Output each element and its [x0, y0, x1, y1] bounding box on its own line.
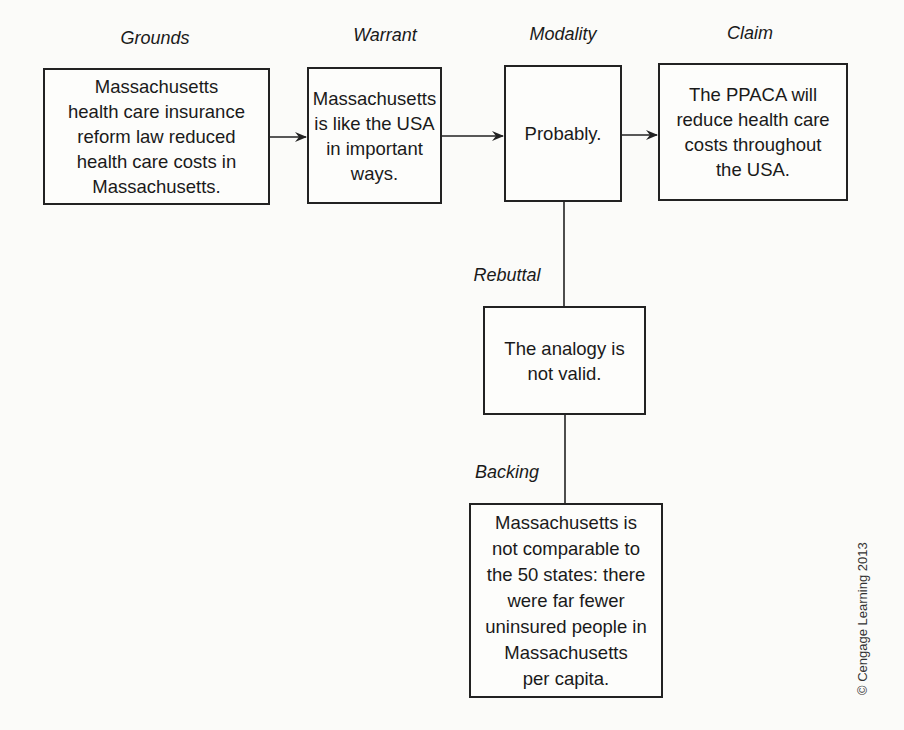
backing-box: Massachusetts is not comparable to the 5… [469, 503, 663, 698]
grounds-box: Massachusetts health care insurance refo… [43, 68, 270, 205]
grounds-text: Massachusetts health care insurance refo… [68, 74, 245, 199]
claim-box: The PPACA will reduce health care costs … [658, 63, 848, 201]
label-claim: Claim [710, 23, 790, 44]
copyright-notice: © Cengage Learning 2013 [855, 542, 870, 695]
label-rebuttal: Rebuttal [462, 265, 552, 286]
claim-text: The PPACA will reduce health care costs … [676, 82, 829, 182]
label-warrant: Warrant [345, 25, 425, 46]
label-modality: Modality [518, 24, 608, 45]
rebuttal-box: The analogy is not valid. [483, 306, 646, 415]
modality-text: Probably. [525, 121, 602, 146]
warrant-box: Massachusetts is like the USA in importa… [307, 67, 442, 204]
backing-text: Massachusetts is not comparable to the 5… [485, 510, 647, 692]
warrant-text: Massachusetts is like the USA in importa… [313, 86, 436, 186]
label-backing: Backing [462, 462, 552, 483]
rebuttal-text: The analogy is not valid. [504, 336, 624, 386]
modality-box: Probably. [504, 65, 622, 202]
label-grounds: Grounds [115, 28, 195, 49]
